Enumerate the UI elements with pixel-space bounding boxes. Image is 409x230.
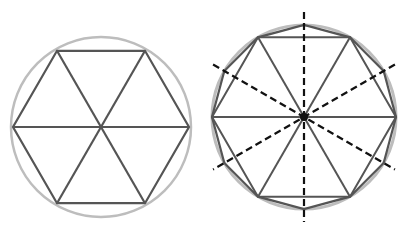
dodecagon-in-circle-figure bbox=[212, 12, 396, 222]
hexagon-in-circle-figure bbox=[11, 37, 191, 217]
geometry-diagram bbox=[0, 0, 409, 230]
center-point bbox=[300, 113, 308, 121]
